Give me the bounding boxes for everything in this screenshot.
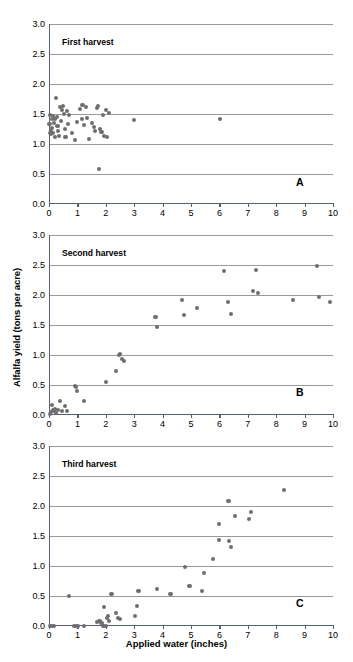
data-point: [168, 592, 172, 596]
data-point: [247, 517, 251, 521]
data-point: [61, 104, 65, 108]
y-tick-label: 0.0: [32, 621, 45, 631]
data-point: [229, 545, 233, 549]
x-axis-title: Applied water (inches): [0, 638, 353, 649]
data-point: [217, 522, 221, 526]
panel-third-harvest: Third harvest C 0.00.51.01.52.02.53.0012…: [0, 435, 353, 635]
x-tick-label: 7: [245, 208, 250, 218]
data-point: [67, 113, 71, 117]
data-point: [80, 117, 84, 121]
data-point: [55, 115, 59, 119]
y-tick-label: 1.0: [32, 561, 45, 571]
data-point: [58, 399, 62, 403]
data-point: [92, 125, 96, 129]
data-point: [132, 118, 136, 122]
y-tick-label: 1.5: [32, 109, 45, 119]
x-tick-mark: [333, 203, 334, 207]
y-tick-label: 0.0: [32, 199, 45, 209]
data-point: [249, 510, 253, 514]
x-tick-mark: [333, 414, 334, 418]
x-tick-label: 8: [274, 630, 279, 640]
plot-area-c: 0.00.51.01.52.02.53.0012345678910: [49, 446, 333, 626]
x-tick-label: 10: [328, 419, 338, 429]
data-point: [227, 539, 231, 543]
data-point: [118, 352, 122, 356]
data-point: [153, 315, 157, 319]
data-point: [59, 119, 63, 123]
data-point: [317, 295, 321, 299]
scatter-points-b: [49, 235, 333, 415]
data-point: [187, 584, 191, 588]
x-tick-label: 5: [188, 419, 193, 429]
data-point: [256, 291, 260, 295]
x-tick-label: 2: [103, 630, 108, 640]
x-tick-label: 9: [302, 208, 307, 218]
y-tick-label: 2.5: [32, 260, 45, 270]
data-point: [54, 96, 58, 100]
data-point: [63, 404, 67, 408]
data-point: [82, 123, 86, 127]
x-tick-label: 3: [132, 208, 137, 218]
x-tick-label: 0: [46, 208, 51, 218]
data-point: [136, 589, 140, 593]
x-tick-mark: [333, 625, 334, 629]
data-point: [182, 313, 186, 317]
data-point: [50, 126, 54, 130]
x-tick-label: 5: [188, 630, 193, 640]
data-point: [114, 611, 118, 615]
x-tick-label: 0: [46, 419, 51, 429]
data-point: [67, 594, 71, 598]
x-tick-label: 1: [75, 630, 80, 640]
y-tick-label: 0.5: [32, 169, 45, 179]
y-tick-label: 2.5: [32, 49, 45, 59]
data-point: [328, 300, 332, 304]
y-tick-label: 1.0: [32, 139, 45, 149]
x-tick-label: 2: [103, 208, 108, 218]
x-tick-label: 7: [245, 630, 250, 640]
data-point: [183, 565, 187, 569]
data-point: [109, 592, 113, 596]
data-point: [75, 120, 79, 124]
x-tick-label: 8: [274, 419, 279, 429]
x-tick-label: 6: [217, 208, 222, 218]
x-tick-label: 10: [328, 630, 338, 640]
data-point: [155, 325, 159, 329]
y-tick-label: 2.0: [32, 501, 45, 511]
y-tick-label: 2.5: [32, 471, 45, 481]
plot-area-b: 0.00.51.01.52.02.53.0012345678910: [49, 235, 333, 415]
data-point: [180, 298, 184, 302]
y-tick-label: 0.0: [32, 410, 45, 420]
data-point: [73, 138, 77, 142]
data-point: [93, 129, 97, 133]
data-point: [226, 499, 230, 503]
y-tick-label: 1.5: [32, 531, 45, 541]
data-point: [107, 619, 111, 623]
x-tick-label: 9: [302, 630, 307, 640]
x-tick-label: 1: [75, 419, 80, 429]
data-point: [291, 298, 295, 302]
data-point: [104, 624, 108, 628]
x-tick-label: 3: [132, 419, 137, 429]
y-tick-label: 3.0: [32, 230, 45, 240]
data-point: [66, 122, 70, 126]
data-point: [82, 624, 86, 628]
data-point: [105, 135, 109, 139]
y-tick-label: 1.5: [32, 320, 45, 330]
data-point: [135, 604, 139, 608]
data-point: [104, 380, 108, 384]
data-point: [60, 409, 64, 413]
alfalfa-yield-figure: Alfalfa yield (tons per acre) Applied wa…: [0, 0, 353, 662]
data-point: [84, 105, 88, 109]
y-tick-label: 0.5: [32, 380, 45, 390]
x-tick-label: 4: [160, 630, 165, 640]
x-tick-label: 5: [188, 208, 193, 218]
data-point: [63, 127, 67, 131]
data-point: [82, 399, 86, 403]
y-tick-label: 2.0: [32, 79, 45, 89]
data-point: [102, 605, 106, 609]
data-point: [217, 538, 221, 542]
y-tick-label: 0.5: [32, 591, 45, 601]
data-point: [70, 131, 74, 135]
data-point: [96, 104, 100, 108]
data-point: [65, 409, 69, 413]
